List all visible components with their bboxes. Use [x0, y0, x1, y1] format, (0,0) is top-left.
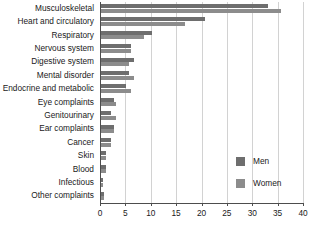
bar-men: [101, 165, 106, 169]
bar-women: [101, 22, 185, 26]
bar-women: [101, 196, 104, 200]
category-label: Mental disorder: [0, 71, 94, 80]
bar-men: [101, 192, 104, 196]
bar-women: [101, 102, 116, 106]
category-label: Blood: [0, 165, 94, 174]
bar-women: [101, 35, 144, 39]
bar-women: [101, 76, 134, 80]
gridline: [227, 2, 228, 203]
x-tick-label: 5: [115, 208, 135, 218]
bar-men: [101, 98, 114, 102]
bar-men: [101, 125, 114, 129]
bar-women: [101, 169, 106, 173]
legend-label: Men: [253, 156, 269, 167]
category-label: Eye complaints: [0, 98, 94, 107]
x-tick-label: 35: [268, 208, 288, 218]
tick-mark: [100, 203, 101, 206]
bar-women: [101, 116, 116, 120]
bar-men: [101, 31, 152, 35]
bar-women: [101, 9, 281, 13]
bar-men: [101, 111, 111, 115]
x-tick-label: 0: [90, 208, 110, 218]
tick-mark: [151, 203, 152, 206]
gridline: [303, 2, 304, 203]
tick-mark: [125, 203, 126, 206]
tick-mark: [227, 203, 228, 206]
gridline: [176, 2, 177, 203]
category-axis-labels: MusculoskeletalHeart and circulatoryResp…: [0, 0, 97, 203]
bar-women: [101, 156, 106, 160]
gridline: [278, 2, 279, 203]
tick-mark: [278, 203, 279, 206]
bar-women: [101, 89, 131, 93]
tick-mark: [202, 203, 203, 206]
bar-men: [101, 71, 129, 75]
category-label: Nervous system: [0, 44, 94, 53]
category-label: Endocrine and metabolic: [0, 84, 94, 93]
bar-women: [101, 143, 111, 147]
x-tick-label: 40: [293, 208, 311, 218]
bar-men: [101, 178, 103, 182]
bar-men: [101, 138, 111, 142]
tick-mark: [176, 203, 177, 206]
bar-men: [101, 4, 268, 8]
plot-area: [100, 2, 303, 203]
x-tick-label: 30: [242, 208, 262, 218]
bar-women: [101, 183, 103, 187]
legend-swatch: [236, 179, 245, 188]
category-label: Ear complaints: [0, 124, 94, 133]
bar-men: [101, 44, 131, 48]
tick-mark: [252, 203, 253, 206]
bar-women: [101, 62, 129, 66]
legend-swatch: [236, 157, 245, 166]
bar-men: [101, 151, 106, 155]
category-label: Infectious: [0, 178, 94, 187]
x-tick-label: 10: [141, 208, 161, 218]
category-label: Musculoskeletal: [0, 4, 94, 13]
category-label: Digestive system: [0, 57, 94, 66]
gridline: [202, 2, 203, 203]
bar-women: [101, 49, 131, 53]
bar-chart: MusculoskeletalHeart and circulatoryResp…: [0, 0, 311, 235]
category-label: Genitourinary: [0, 111, 94, 120]
bar-men: [101, 84, 126, 88]
bar-men: [101, 17, 205, 21]
category-label: Heart and circulatory: [0, 17, 94, 26]
category-label: Respiratory: [0, 31, 94, 40]
bar-men: [101, 58, 134, 62]
gridline: [252, 2, 253, 203]
x-tick-label: 15: [166, 208, 186, 218]
x-tick-label: 25: [217, 208, 237, 218]
legend-label: Women: [253, 178, 281, 189]
bar-women: [101, 129, 114, 133]
category-label: Skin: [0, 151, 94, 160]
category-label: Cancer: [0, 138, 94, 147]
tick-mark: [303, 203, 304, 206]
category-label: Other complaints: [0, 191, 94, 200]
x-tick-label: 20: [192, 208, 212, 218]
